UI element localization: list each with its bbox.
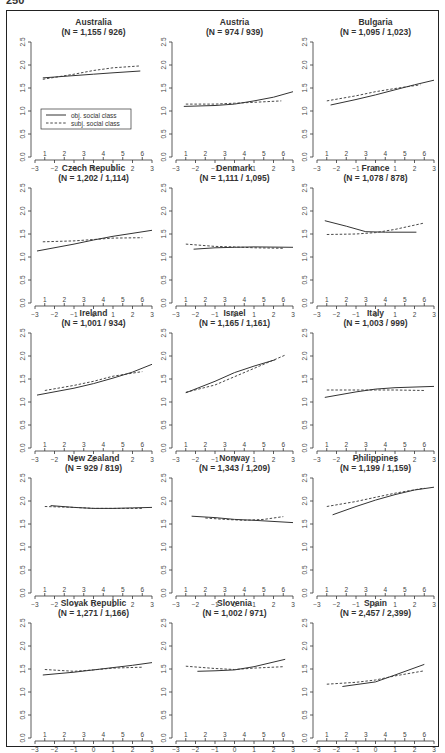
y-tick-label: 1.0: [160, 252, 167, 261]
y-tick-label: 0.0: [301, 588, 308, 597]
x-tick-label: 0: [233, 746, 237, 753]
panel-title: Slovenia: [217, 598, 252, 608]
class-tick-label: 1: [325, 586, 329, 593]
y-tick-label: 1.0: [19, 542, 26, 551]
x-tick-label: 3: [432, 456, 436, 463]
class-tick-label: 6: [422, 731, 426, 738]
panel-bulgaria: Bulgaria(N = 1,095 / 1,023)0.00.51.01.52…: [301, 17, 436, 172]
class-tick-label: 1: [43, 296, 47, 303]
y-tick-label: 2.5: [160, 618, 167, 627]
y-tick-label: 1.5: [19, 374, 26, 383]
y-tick-label: 0.5: [19, 710, 26, 719]
y-tick-label: 2.0: [301, 60, 308, 69]
y-tick-label: 2.5: [160, 37, 167, 46]
x-tick-label: 2: [272, 746, 276, 753]
subj-social-class-line: [45, 507, 143, 509]
class-tick-label: 5: [121, 150, 125, 157]
x-tick-label: −1: [211, 311, 219, 318]
panel-slovenia: Slovenia(N = 1,002 / 971)0.00.51.01.52.0…: [160, 598, 295, 753]
class-tick-label: 3: [364, 586, 368, 593]
class-tick-label: 1: [325, 296, 329, 303]
x-tick-label: −2: [192, 601, 200, 608]
class-tick-label: 3: [364, 296, 368, 303]
panel-sample-size: (N = 1,001 / 934): [61, 318, 125, 328]
panel-czech-republic: Czech Republic(N = 1,202 / 1,114)0.00.51…: [19, 163, 154, 318]
y-tick-label: 1.0: [301, 252, 308, 261]
class-tick-label: 2: [344, 296, 348, 303]
class-tick-label: 2: [203, 586, 207, 593]
y-tick-label: 0.5: [160, 275, 167, 284]
x-tick-label: −1: [70, 311, 78, 318]
class-tick-label: 3: [223, 731, 227, 738]
class-tick-label: 2: [344, 150, 348, 157]
y-tick-label: 0.0: [301, 298, 308, 307]
subj-social-class-line: [43, 66, 141, 79]
class-tick-label: 3: [364, 441, 368, 448]
y-tick-label: 0.5: [19, 420, 26, 429]
class-tick-label: 6: [281, 731, 285, 738]
y-tick-label: 0.5: [19, 129, 26, 138]
y-tick-label: 0.0: [19, 298, 26, 307]
obj-social-class-line: [331, 80, 434, 105]
class-tick-label: 2: [203, 150, 207, 157]
y-tick-label: 1.5: [301, 229, 308, 238]
x-tick-label: 3: [291, 165, 295, 172]
y-tick-label: 1.5: [301, 519, 308, 528]
panel-title: Denmark: [216, 163, 253, 173]
y-tick-label: 1.5: [19, 83, 26, 92]
class-tick-label: 3: [82, 586, 86, 593]
y-tick-label: 2.0: [19, 60, 26, 69]
panel-sample-size: (N = 1,111 / 1,095): [199, 173, 269, 183]
x-tick-label: −3: [313, 311, 321, 318]
panel-title: Australia: [75, 17, 112, 27]
x-tick-label: −2: [51, 311, 59, 318]
x-tick-label: −3: [172, 456, 180, 463]
class-tick-label: 2: [344, 731, 348, 738]
class-tick-label: 1: [184, 441, 188, 448]
class-tick-label: 6: [140, 586, 144, 593]
class-tick-label: 4: [101, 586, 105, 593]
y-tick-label: 0.0: [160, 443, 167, 452]
class-tick-label: 1: [325, 150, 329, 157]
class-tick-label: 6: [140, 441, 144, 448]
panel-sample-size: (N = 1,343 / 1,209): [199, 463, 270, 473]
class-tick-label: 4: [242, 441, 246, 448]
obj-social-class-line: [197, 659, 285, 671]
y-tick-label: 2.5: [19, 183, 26, 192]
class-tick-label: 2: [203, 441, 207, 448]
y-tick-label: 0.0: [19, 152, 26, 161]
legend: obj. social classsubj. social class: [41, 109, 131, 129]
x-tick-label: −1: [70, 746, 78, 753]
panel-sample-size: (N = 974 / 939): [206, 27, 263, 37]
panel-sample-size: (N = 1,003 / 999): [343, 318, 407, 328]
panel-france: France(N = 1,078 / 878)0.00.51.01.52.02.…: [301, 163, 436, 318]
y-tick-label: 1.0: [301, 687, 308, 696]
y-tick-label: 2.0: [160, 206, 167, 215]
y-tick-label: 2.0: [160, 60, 167, 69]
y-tick-label: 2.0: [160, 351, 167, 360]
class-tick-label: 2: [62, 296, 66, 303]
y-tick-label: 2.5: [160, 328, 167, 337]
y-tick-label: 1.0: [301, 397, 308, 406]
panel-sample-size: (N = 1,271 / 1,166): [58, 608, 129, 618]
panel-slovak-republic: Slovak Republic(N = 1,271 / 1,166)0.00.5…: [19, 598, 154, 753]
subj-social-class-line: [45, 372, 143, 391]
subj-social-class-line: [45, 667, 143, 671]
x-tick-label: −3: [313, 746, 321, 753]
y-tick-label: 1.0: [19, 252, 26, 261]
x-tick-label: 2: [413, 311, 417, 318]
panel-sample-size: (N = 1,155 / 926): [61, 27, 125, 37]
y-tick-label: 0.0: [19, 733, 26, 742]
obj-social-class-line: [37, 364, 152, 395]
class-tick-label: 5: [262, 586, 266, 593]
subj-social-class-line: [186, 101, 281, 104]
class-tick-label: 6: [422, 296, 426, 303]
x-tick-label: −1: [352, 746, 360, 753]
y-tick-label: 1.5: [160, 664, 167, 673]
panel-sample-size: (N = 1,095 / 1,023): [340, 27, 411, 37]
y-tick-label: 2.5: [160, 473, 167, 482]
class-tick-label: 2: [203, 731, 207, 738]
x-tick-label: −2: [192, 746, 200, 753]
class-tick-label: 3: [82, 731, 86, 738]
panel-norway: Norway(N = 1,343 / 1,209)0.00.51.01.52.0…: [160, 453, 295, 608]
